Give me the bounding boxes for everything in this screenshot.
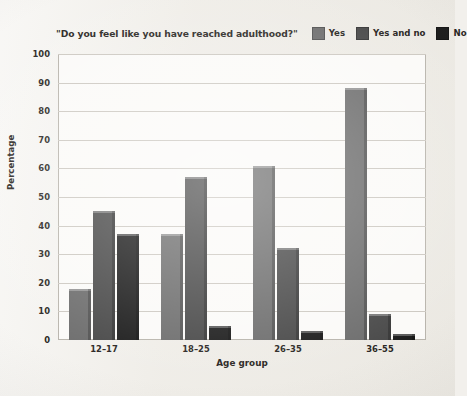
- y-axis-tick-labels: 0102030405060708090100: [0, 54, 56, 340]
- bar-shadow: [180, 234, 183, 340]
- chart-header: "Do you feel like you have reached adult…: [0, 22, 455, 44]
- bar-group: [58, 54, 150, 340]
- chart-legend: Yes Yes and no No: [312, 27, 467, 40]
- bar[interactable]: [69, 289, 91, 340]
- bar-shadow: [88, 289, 91, 340]
- bar[interactable]: [393, 334, 415, 340]
- bar[interactable]: [253, 166, 275, 340]
- legend-swatch-yes-and-no: [356, 27, 369, 40]
- y-axis-tick-60: 60: [38, 163, 50, 173]
- bar[interactable]: [369, 314, 391, 340]
- x-axis-tick-3: 36–55: [366, 344, 394, 354]
- bar-group: [150, 54, 242, 340]
- bar-shadow: [296, 248, 299, 340]
- bar[interactable]: [117, 234, 139, 340]
- bar-shadow: [204, 177, 207, 340]
- bar-shadow: [272, 166, 275, 340]
- y-axis-tick-40: 40: [38, 221, 50, 231]
- bar[interactable]: [93, 211, 115, 340]
- legend-label-yes: Yes: [329, 28, 345, 38]
- chart-title: "Do you feel like you have reached adult…: [56, 28, 298, 39]
- legend-swatch-no: [436, 27, 449, 40]
- bar[interactable]: [345, 88, 367, 340]
- bar[interactable]: [161, 234, 183, 340]
- legend-item-yes[interactable]: Yes: [312, 27, 345, 40]
- bar-shadow: [136, 234, 139, 340]
- x-axis-title: Age group: [58, 358, 426, 368]
- plot-area: [58, 54, 426, 340]
- bar[interactable]: [277, 248, 299, 340]
- y-axis-tick-0: 0: [44, 335, 50, 345]
- bar-group: [334, 54, 426, 340]
- bar-shadow: [388, 314, 391, 340]
- legend-item-yes-and-no[interactable]: Yes and no: [356, 27, 425, 40]
- bar-shadow: [228, 326, 231, 340]
- x-axis-tick-0: 12–17: [90, 344, 118, 354]
- bar-shadow: [320, 331, 323, 340]
- bar-group: [242, 54, 334, 340]
- y-axis-tick-80: 80: [38, 106, 50, 116]
- y-axis-tick-90: 90: [38, 78, 50, 88]
- y-axis-tick-10: 10: [38, 306, 50, 316]
- bar[interactable]: [185, 177, 207, 340]
- y-axis-tick-50: 50: [38, 192, 50, 202]
- x-axis-tick-labels: 12–1718–2526–3536–55: [58, 344, 426, 358]
- bar-series-container: [58, 54, 426, 340]
- bar-shadow: [112, 211, 115, 340]
- bar-shadow: [364, 88, 367, 340]
- y-axis-tick-30: 30: [38, 249, 50, 259]
- legend-label-yes-and-no: Yes and no: [373, 28, 425, 38]
- legend-swatch-yes: [312, 27, 325, 40]
- y-axis-tick-20: 20: [38, 278, 50, 288]
- bar-shadow: [412, 334, 415, 340]
- x-axis-tick-1: 18–25: [182, 344, 210, 354]
- legend-item-no[interactable]: No: [436, 27, 466, 40]
- legend-label-no: No: [453, 28, 466, 38]
- x-axis-tick-2: 26–35: [274, 344, 302, 354]
- bar[interactable]: [209, 326, 231, 340]
- bar[interactable]: [301, 331, 323, 340]
- y-axis-tick-70: 70: [38, 135, 50, 145]
- y-axis-tick-100: 100: [33, 49, 50, 59]
